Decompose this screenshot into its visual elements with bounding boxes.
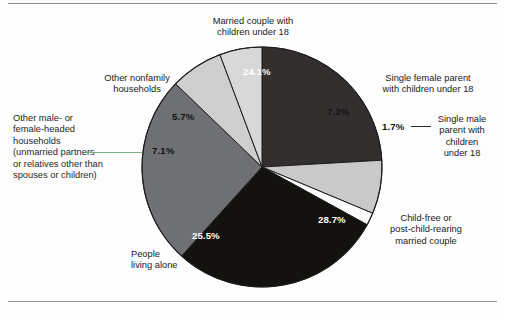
slice-value-single-male-parent: 1.7% bbox=[382, 121, 404, 132]
slice-label-child-free-married-couple: Child-free or post-child-rearing married… bbox=[363, 213, 489, 247]
slice-label-married-couple-children: Married couple with children under 18 bbox=[178, 16, 328, 39]
slice-value-married-couple-children: 24.1% bbox=[243, 66, 271, 77]
slice-value-single-female-parent: 7.2% bbox=[327, 106, 349, 117]
slice-label-single-male-parent: Single male parent with children under 1… bbox=[424, 114, 500, 160]
slice-value-other-nonfamily-households: 5.7% bbox=[172, 111, 194, 122]
slice-value-other-male-female-headed: 7.1% bbox=[152, 145, 174, 156]
leader-line-single-male-parent bbox=[411, 126, 431, 127]
pie-slice-married-couple-children[interactable] bbox=[262, 47, 382, 167]
slice-value-people-living-alone: 25.5% bbox=[192, 230, 220, 241]
slice-label-other-nonfamily-households: Other nonfamily households bbox=[80, 73, 194, 96]
leader-line-other-male-female-headed bbox=[86, 152, 142, 153]
pie-chart-figure: 24.1% 7.2% 1.7% 28.7% 25.5% 7.1% 5.7% Ma… bbox=[0, 0, 505, 317]
slice-label-single-female-parent: Single female parent with children under… bbox=[354, 73, 502, 96]
slice-value-child-free-married-couple: 28.7% bbox=[318, 214, 346, 225]
slice-label-other-male-female-headed: Other male- or female-headed households … bbox=[13, 113, 135, 181]
slice-label-people-living-alone: People living alone bbox=[131, 249, 241, 272]
